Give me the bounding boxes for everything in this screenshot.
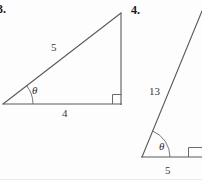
triangle-right-right-angle-marker xyxy=(189,148,203,158)
problem-number-4: 4. xyxy=(131,4,140,16)
triangle-left-group xyxy=(3,13,122,105)
triangle-left-hypotenuse xyxy=(3,13,121,104)
problem-number-3: 3. xyxy=(0,3,6,15)
triangle-left-hypotenuse-label: 5 xyxy=(51,42,57,53)
figure-canvas: 5 4 θ 13 5 θ 3. 4. xyxy=(0,0,202,181)
triangles-svg xyxy=(0,0,202,181)
triangle-left-base-label: 4 xyxy=(62,108,68,119)
triangle-right-base-label: 5 xyxy=(165,165,171,176)
triangle-right-hypotenuse xyxy=(142,11,202,157)
triangle-right-hypotenuse-label: 13 xyxy=(149,86,160,97)
triangle-right-theta-label: θ xyxy=(159,141,164,152)
triangle-right-group xyxy=(142,11,203,157)
triangle-left-right-angle-marker xyxy=(113,95,122,105)
triangle-left-theta-label: θ xyxy=(32,85,37,96)
